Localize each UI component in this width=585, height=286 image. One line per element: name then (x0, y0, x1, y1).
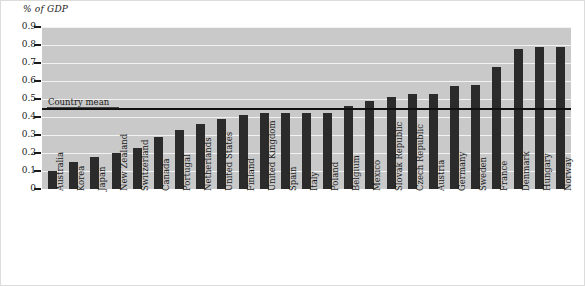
y-axis-tick-label: 0 (30, 183, 36, 193)
x-axis-category-label: Mexico (373, 160, 382, 191)
country-mean-line (42, 108, 571, 110)
x-axis-category-label: Italy (310, 172, 319, 191)
y-axis-tick-label: 0.6 (22, 75, 36, 85)
x-axis-category-label: Czech Republic (416, 124, 425, 191)
x-axis-category-label: Japan (98, 167, 107, 191)
x-axis-category-label: Korea (77, 166, 86, 191)
x-axis-category-label: Canada (162, 158, 171, 191)
x-axis-category-label: Hungary (543, 153, 552, 191)
x-axis-category-label: Slovak Republic (395, 122, 404, 191)
x-axis-category-label: Netherlands (204, 137, 213, 191)
x-axis-category-label: Switzerland (141, 139, 150, 191)
country-mean-label-underline (47, 107, 119, 108)
gridline (42, 27, 571, 28)
y-axis-tick-label: 0.4 (22, 111, 36, 121)
gridline (42, 45, 571, 46)
y-axis-tick-label: 0.8 (22, 39, 36, 49)
x-axis-category-label: Austria (437, 160, 446, 191)
x-axis-category-label: Germany (458, 152, 467, 191)
x-axis-category-label: Portugal (183, 154, 192, 191)
x-axis-category-label: New Zealand (120, 134, 129, 191)
x-axis-category-label: Belgium (352, 155, 361, 191)
y-axis-tick-label: 0.7 (22, 57, 36, 67)
y-axis-tick-label: 0.1 (22, 165, 36, 175)
x-axis-category-label: Sweden (479, 157, 488, 191)
y-axis-tick-label: 0.2 (22, 147, 36, 157)
x-axis-category-label: Denmark (522, 151, 531, 191)
gridline (42, 63, 571, 64)
x-axis-category-label: United States (225, 132, 234, 191)
x-axis-category-label: United Kingdom (268, 120, 277, 191)
x-axis-category-labels: AustraliaKoreaJapanNew ZealandSwitzerlan… (42, 191, 571, 285)
x-axis-category-label: France (500, 161, 509, 191)
x-axis-category-label: Australia (56, 152, 65, 191)
y-axis-tick-label: 0.9 (22, 21, 36, 31)
x-axis-category-label: Norway (564, 157, 573, 191)
bar-chart-figure: % of GDP 0.90.80.70.60.50.40.30.20.10 Co… (0, 0, 585, 286)
y-axis-tick-label: 0.3 (22, 129, 36, 139)
x-axis-category-label: Spain (289, 166, 298, 191)
x-axis-category-label: Finland (247, 158, 256, 191)
y-axis-tick-label: 0.5 (22, 93, 36, 103)
x-axis-category-label: Poland (331, 162, 340, 191)
y-axis-title: % of GDP (23, 4, 68, 14)
country-mean-label: Country mean (48, 97, 109, 107)
